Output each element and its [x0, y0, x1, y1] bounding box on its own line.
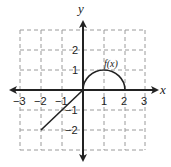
y-axis-label: y	[76, 1, 84, 16]
function-label: f(x)	[104, 58, 119, 70]
x-tick-label: 1	[101, 95, 107, 107]
y-tick-label: 1	[72, 64, 78, 76]
y-tick-label: 2	[72, 44, 78, 56]
axes	[11, 22, 157, 160]
x-tick-label: 2	[121, 95, 127, 107]
x-tick-label: 3	[141, 95, 147, 107]
y-tick-label: −2	[65, 124, 78, 136]
x-tick-label: −3	[13, 95, 26, 107]
coordinate-graph: x y −3 −2 −1 1 2 3 2 1 −1 −2 f(x)	[0, 0, 171, 167]
y-tick-label: −1	[65, 104, 78, 116]
x-axis-label: x	[159, 82, 166, 97]
x-tick-label: −2	[34, 95, 47, 107]
